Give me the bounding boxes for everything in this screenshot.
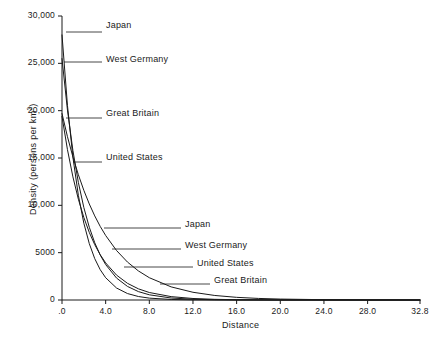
callout-label-japan: Japan — [106, 20, 132, 30]
x-axis-tick-label: 16.0 — [217, 306, 257, 316]
x-axis-tick-label: 4.0 — [86, 306, 126, 316]
x-axis-tick-label: 24.0 — [304, 306, 344, 316]
x-axis-tick-label: 12.0 — [173, 306, 213, 316]
callout-label-great-britain: Great Britain — [214, 275, 267, 285]
y-axis-title: Density (persons per km2) — [26, 103, 38, 215]
y-axis-title-exponent: 2 — [26, 107, 33, 111]
x-axis-tick-label: 32.8 — [400, 306, 440, 316]
series-line-united-states — [62, 116, 420, 300]
y-axis-tick-label: 25,000 — [28, 57, 55, 67]
x-axis-tick-label: 8.0 — [129, 306, 169, 316]
x-axis-tick-label: 20.0 — [260, 306, 300, 316]
callout-label-japan: Japan — [185, 219, 211, 229]
series-line-great-britain — [62, 114, 420, 300]
x-axis-tick-label: 28.0 — [348, 306, 388, 316]
callout-label-great-britain: Great Britain — [106, 108, 159, 118]
callout-label-united-states: United States — [197, 258, 254, 268]
x-axis-title: Distance — [222, 320, 259, 330]
callout-label-west-germany: West Germany — [185, 240, 247, 250]
y-axis-tick-label: 30,000 — [28, 10, 55, 20]
callout-label-united-states: United States — [106, 152, 163, 162]
density-distance-chart: 0500010,00015,00020,00025,00030,000 .04.… — [0, 0, 446, 342]
y-axis-title-suffix: ) — [28, 103, 38, 106]
chart-plot-area — [0, 0, 446, 342]
x-axis-tick-label: .0 — [42, 306, 82, 316]
callout-label-west-germany: West Germany — [106, 54, 168, 64]
y-axis-title-base: Density (persons per km — [28, 111, 38, 215]
y-axis-tick-label: 0 — [50, 294, 55, 304]
y-axis-tick-label: 5000 — [35, 247, 55, 257]
